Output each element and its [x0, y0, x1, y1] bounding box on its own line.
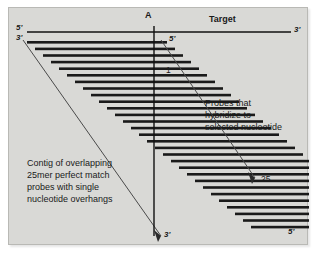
diagram-panel: A Target 5' 3' 3' 5' 1 25 3' 5' Probes t…	[8, 7, 308, 245]
probe-bar	[163, 153, 303, 156]
probe-bar	[155, 147, 295, 150]
first-probe-five-prime-label: 5'	[169, 34, 175, 44]
target-three-prime-label: 3'	[294, 25, 300, 35]
right-annotation-line-2: hybridize to	[205, 110, 251, 121]
probe-bar	[59, 67, 199, 70]
probe-bar	[171, 160, 309, 163]
probe-bar	[51, 61, 191, 64]
left-annotation-line-1: Contig of overlapping	[27, 158, 112, 169]
probe-bar	[147, 140, 287, 143]
selected-nucleotide-label: A	[145, 10, 152, 21]
probe-bar	[187, 173, 309, 176]
left-annotation-line-2: 25mer perfect match	[27, 170, 110, 181]
right-annotation-line-3: selected nucleotide	[205, 122, 282, 133]
probe-bar	[203, 186, 309, 189]
probe-bar	[227, 206, 309, 209]
probe-bar	[235, 213, 309, 216]
probe-bar	[43, 54, 183, 57]
contig-three-prime-label: 3'	[16, 33, 22, 43]
target-five-prime-label: 5'	[16, 23, 22, 33]
probe-bar	[243, 219, 309, 222]
last-probe-five-prime-label: 5'	[288, 227, 294, 237]
probe-bar	[27, 41, 167, 44]
target-title-label: Target	[209, 14, 236, 25]
probe-bar	[83, 87, 223, 90]
contig-bottom-three-prime-label: 3'	[164, 230, 170, 240]
probe-bar	[75, 81, 215, 84]
right-annotation-line-1: Probes that	[205, 98, 251, 109]
probe-number-last-label: 25	[261, 174, 270, 184]
probe-number-first-label: 1	[166, 65, 171, 75]
probe-bar	[219, 199, 309, 202]
probe-bar	[139, 133, 279, 136]
probe-bar	[179, 166, 309, 169]
left-annotation-line-4: nucleotide overhangs	[27, 194, 113, 205]
figure-root: A Target 5' 3' 3' 5' 1 25 3' 5' Probes t…	[0, 0, 321, 267]
probe-bar	[211, 193, 309, 196]
probe-bar	[251, 226, 309, 229]
left-annotation-line-3: probes with single	[27, 182, 99, 193]
probe-bar	[91, 94, 231, 97]
